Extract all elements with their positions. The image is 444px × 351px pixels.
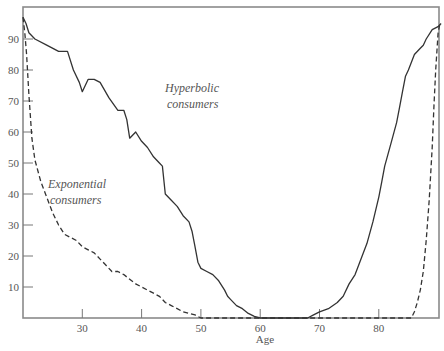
x-tick-label: 70 [314, 322, 326, 334]
y-tick-label: 30 [8, 219, 20, 231]
x-axis-title: Age [256, 333, 274, 345]
y-tick-label: 60 [8, 126, 20, 138]
x-tick-label: 50 [195, 322, 207, 334]
y-tick-label: 80 [8, 64, 20, 76]
exponential-consumers-line [23, 17, 440, 318]
x-tick-label: 40 [136, 322, 148, 334]
line-chart: 102030405060708090 304050607080 Hyperbol… [0, 0, 444, 351]
x-tick-label: 30 [77, 322, 89, 334]
y-tick-label: 70 [8, 95, 20, 107]
annotation-label: consumers [50, 193, 102, 207]
y-axis-ticks: 102030405060708090 [8, 33, 33, 293]
y-tick-label: 90 [8, 33, 20, 45]
y-tick-label: 50 [8, 157, 20, 169]
y-tick-label: 40 [8, 188, 20, 200]
x-tick-label: 80 [373, 322, 385, 334]
plot-frame [23, 7, 439, 318]
hyperbolic-consumers-line [23, 17, 441, 318]
y-tick-label: 20 [8, 250, 20, 262]
plot-border [23, 7, 439, 318]
annotation-label: consumers [167, 97, 219, 111]
y-tick-label: 10 [8, 281, 20, 293]
data-series [23, 17, 441, 318]
annotation-label: Hyperbolic [164, 81, 220, 95]
annotation-label: Exponential [47, 177, 107, 191]
x-axis-ticks: 304050607080 [77, 309, 385, 334]
annotations: HyperbolicconsumersExponentialconsumers [47, 81, 220, 207]
